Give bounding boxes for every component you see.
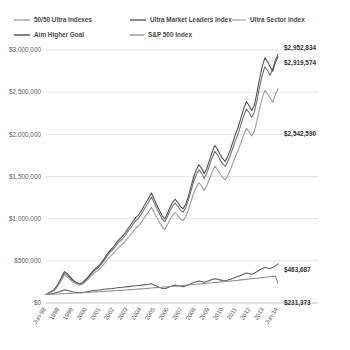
- y-axis-tick-label: $1,500,000: [9, 173, 41, 180]
- y-axis-tick-label: $3,000,000: [9, 46, 41, 53]
- end-value-label: $231,373: [284, 299, 311, 307]
- legend-label: Ultra Market Leaders Index: [150, 16, 232, 23]
- chart-background: [0, 0, 350, 350]
- end-value-label: $2,952,834: [284, 44, 316, 52]
- end-value-label: $463,687: [284, 266, 311, 274]
- legend-label: Aim Higher Goal: [34, 31, 84, 39]
- chart-container: 50/50 Ultra IndexesUltra Market Leaders …: [0, 0, 350, 350]
- line-chart: 50/50 Ultra IndexesUltra Market Leaders …: [0, 0, 350, 350]
- legend-label: S&P 500 Index: [148, 31, 192, 38]
- legend-label: 50/50 Ultra Indexes: [34, 16, 92, 23]
- y-axis-tick-label: $2,500,000: [9, 88, 41, 95]
- legend-label: Ultra Sector Index: [250, 16, 305, 23]
- end-value-label: $2,542,590: [284, 130, 316, 138]
- y-axis-tick-label: $0: [34, 299, 42, 306]
- y-axis-tick-label: $500,000: [14, 257, 41, 264]
- y-axis-tick-label: $1,000,000: [9, 215, 41, 222]
- end-value-label: $2,919,574: [284, 59, 316, 67]
- y-axis-tick-label: $2,000,000: [9, 131, 41, 138]
